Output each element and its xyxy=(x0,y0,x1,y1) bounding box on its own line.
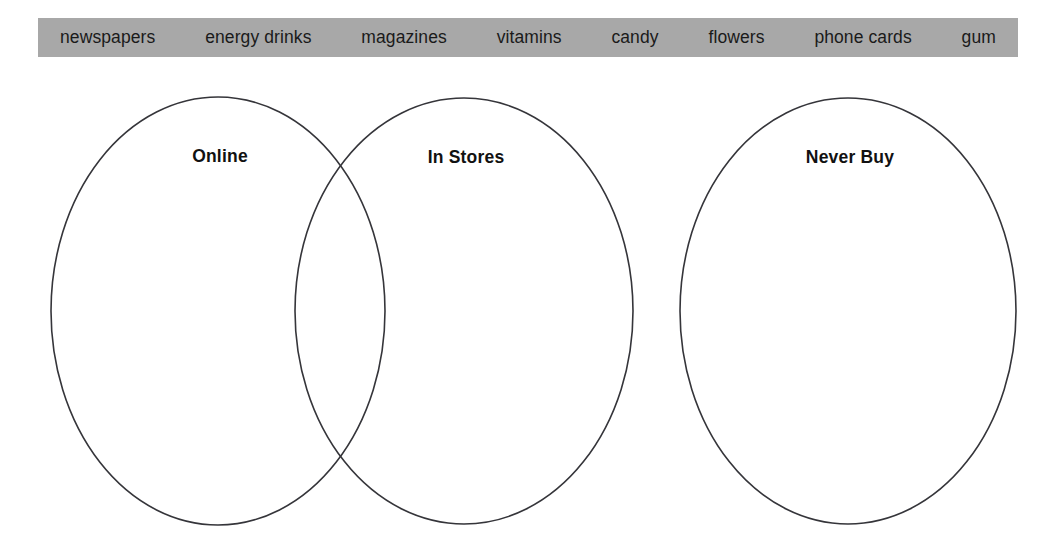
venn-diagram-shapes xyxy=(0,0,1057,554)
venn-label-in-stores: In Stores xyxy=(428,147,505,168)
venn-label-never-buy: Never Buy xyxy=(806,147,894,168)
venn-label-online: Online xyxy=(192,146,248,167)
worksheet: newspapers energy drinks magazines vitam… xyxy=(0,0,1057,554)
venn-diagram: Online In Stores Never Buy xyxy=(0,0,1057,554)
